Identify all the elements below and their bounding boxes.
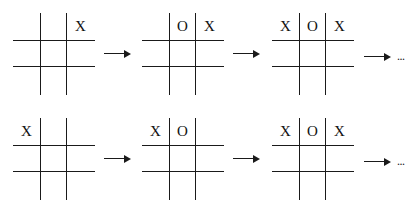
right-arrow-icon <box>364 157 391 167</box>
board-cell <box>300 145 326 171</box>
board-cell <box>170 67 196 93</box>
right-arrow-icon <box>104 154 131 164</box>
board-cell <box>197 172 223 198</box>
board-cell: O <box>170 13 196 39</box>
board-cell <box>273 145 299 171</box>
board-cell <box>14 172 40 198</box>
board-cell: X <box>273 13 299 39</box>
board-cell <box>197 40 223 66</box>
board-cell: X <box>197 13 223 39</box>
board-cell <box>273 172 299 198</box>
board-cell <box>327 40 353 66</box>
board-cell <box>41 118 67 144</box>
board-cell <box>300 172 326 198</box>
board-cell: O <box>170 118 196 144</box>
board-cell <box>170 172 196 198</box>
board-cell <box>300 40 326 66</box>
right-arrow-icon <box>104 49 131 59</box>
board-cell <box>14 13 40 39</box>
board-cell <box>41 67 67 93</box>
board-cell <box>170 145 196 171</box>
tic-tac-toe-board: OX <box>142 13 224 95</box>
board-cell: X <box>14 118 40 144</box>
board-cell <box>197 118 223 144</box>
board-cell: X <box>327 118 353 144</box>
board-cell <box>300 67 326 93</box>
board-cell: X <box>143 118 169 144</box>
board-cell <box>68 67 94 93</box>
board-cell <box>197 67 223 93</box>
board-cell <box>41 145 67 171</box>
tic-tac-toe-board: XO <box>142 118 224 200</box>
board-cell <box>327 145 353 171</box>
board-cell <box>41 13 67 39</box>
board-cell <box>327 172 353 198</box>
board-cell <box>143 40 169 66</box>
board-cell <box>143 67 169 93</box>
tic-tac-toe-board: X <box>13 118 95 200</box>
tic-tac-toe-board: XOX <box>272 13 354 95</box>
board-cell <box>14 145 40 171</box>
board-cell: X <box>68 13 94 39</box>
right-arrow-icon <box>233 154 260 164</box>
board-cell <box>170 40 196 66</box>
board-cell: O <box>300 13 326 39</box>
board-cell: X <box>327 13 353 39</box>
board-cell <box>14 40 40 66</box>
continuation-ellipsis: ... <box>397 49 405 64</box>
right-arrow-icon <box>233 49 260 59</box>
board-cell <box>273 40 299 66</box>
board-cell <box>68 40 94 66</box>
right-arrow-icon <box>364 52 391 62</box>
board-cell: O <box>300 118 326 144</box>
tic-tac-toe-board: XOX <box>272 118 354 200</box>
board-cell <box>68 145 94 171</box>
board-cell: X <box>273 118 299 144</box>
board-cell <box>143 172 169 198</box>
board-cell <box>68 172 94 198</box>
board-cell <box>273 67 299 93</box>
board-cell <box>41 40 67 66</box>
board-cell <box>41 172 67 198</box>
board-cell <box>327 67 353 93</box>
continuation-ellipsis: ... <box>397 154 405 169</box>
board-cell <box>197 145 223 171</box>
board-cell <box>68 118 94 144</box>
tic-tac-toe-board: X <box>13 13 95 95</box>
board-cell <box>14 67 40 93</box>
board-cell <box>143 145 169 171</box>
board-cell <box>143 13 169 39</box>
